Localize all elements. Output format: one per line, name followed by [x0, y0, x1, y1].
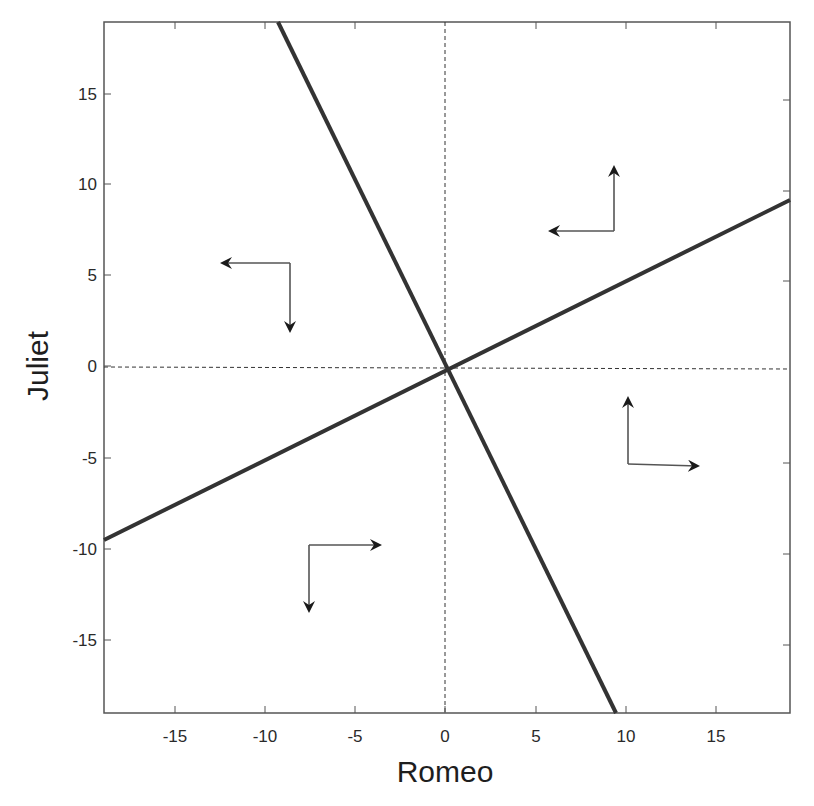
shallow-eigenline [104, 200, 790, 540]
x-tick-label: -5 [347, 727, 362, 746]
arrow-right-icon [628, 464, 698, 466]
y-tick-label: 5 [88, 266, 97, 285]
y-tick-label: 0 [88, 357, 97, 376]
y-tick-label: 10 [78, 175, 97, 194]
y-tick-label: -10 [72, 540, 97, 559]
x-tick-labels: -15 -10 -5 0 5 10 15 [163, 727, 726, 746]
x-tick-label: 5 [531, 727, 540, 746]
y-tick-label: -15 [72, 631, 97, 650]
x-tick-label: -10 [253, 727, 278, 746]
arrow-pair-upper-left [222, 263, 290, 331]
x-axis-label: Romeo [397, 755, 494, 788]
y-tick-label: 15 [78, 85, 97, 104]
y-axis-label: Juliet [21, 330, 54, 401]
x-tick-label: -15 [163, 727, 188, 746]
phase-plane-chart: -15 -10 -5 0 5 10 15 15 10 5 0 -5 -10 -1… [0, 0, 814, 806]
x-tick-label: 15 [707, 727, 726, 746]
arrow-pair-upper-right [550, 167, 614, 231]
arrow-pair-lower-right [628, 398, 698, 466]
x-tick-label: 0 [440, 727, 449, 746]
arrow-pair-lower-left [309, 545, 380, 611]
y-tick-label: -5 [82, 449, 97, 468]
y-tick-labels: 15 10 5 0 -5 -10 -15 [72, 85, 97, 650]
x-tick-label: 10 [617, 727, 636, 746]
